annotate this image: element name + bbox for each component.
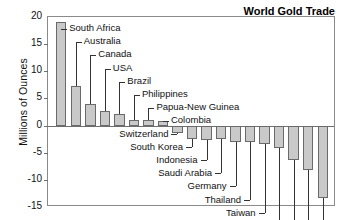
leader-line (171, 134, 177, 135)
leader-line (201, 160, 207, 161)
leader-line (294, 160, 295, 220)
leader-line (244, 200, 250, 201)
leader-line (221, 139, 222, 173)
leader-line (192, 139, 193, 147)
leader-line (134, 95, 135, 120)
y-tick-mark (44, 98, 48, 99)
bar-label-canada: Canada (98, 49, 131, 59)
leader-line (119, 82, 125, 83)
y-tick-label: -10 (16, 174, 42, 184)
leader-line (265, 144, 266, 213)
y-tick-mark (44, 126, 48, 127)
leader-line (308, 170, 309, 220)
y-tick-label: 5 (16, 92, 42, 102)
chart-root: Millions of Ounces 20151050-5-10-15 Worl… (0, 0, 343, 220)
y-tick-label: 0 (16, 120, 42, 130)
leader-line (90, 55, 91, 103)
bar-label-south-africa: South Africa (69, 23, 120, 33)
bar-switzerland (172, 126, 182, 133)
bar-label-indonesia: Indonesia (48, 155, 198, 165)
leader-line (90, 55, 96, 56)
bar-label-taiwan: Taiwan (48, 208, 256, 218)
y-tick-label: 10 (16, 65, 42, 75)
bar-label-australia: Australia (84, 36, 121, 46)
bar-thailand (245, 126, 255, 142)
bar-label-usa: USA (113, 63, 133, 73)
bar-south-korea (187, 126, 197, 139)
leader-line (148, 108, 149, 120)
bar-brazil (114, 114, 124, 125)
bar-saudi-arabia (216, 126, 226, 140)
bar-label-south-korea: South Korea (48, 142, 183, 152)
leader-line (148, 108, 154, 109)
leader-line (105, 69, 106, 111)
plot-area: South AfricaAustraliaCanadaUSABrazilPhil… (47, 16, 335, 206)
leader-line (207, 140, 208, 160)
bar-label-colombia: Colombia (171, 115, 211, 125)
leader-line (186, 147, 192, 148)
bar-label-brazil: Brazil (127, 76, 151, 86)
bar-turkey (274, 126, 284, 148)
leader-line (250, 142, 251, 200)
leader-line (134, 95, 140, 96)
leader-line (323, 198, 324, 220)
leader-line (105, 69, 111, 70)
bar-india (303, 126, 313, 171)
y-tick-label: -15 (16, 201, 42, 211)
bar-australia (71, 86, 81, 126)
bar-label-saudi-arabia: Saudi Arabia (48, 168, 212, 178)
bar-japan (288, 126, 298, 160)
bar-south-africa (56, 22, 66, 125)
bar-germany (230, 126, 240, 142)
y-tick-label: -5 (16, 147, 42, 157)
leader-line (279, 148, 280, 220)
leader-line (76, 42, 82, 43)
leader-line (215, 173, 221, 174)
y-tick-label: 20 (16, 11, 42, 21)
y-tick-mark (44, 153, 48, 154)
leader-line (230, 186, 236, 187)
leader-line (76, 42, 77, 86)
bar-philippines (129, 120, 139, 125)
bar-label-thailand: Thailand (48, 195, 241, 205)
leader-line (259, 213, 265, 214)
bar-taiwan (259, 126, 269, 144)
y-axis-tick-labels: 20151050-5-10-15 (14, 0, 42, 220)
leader-line (177, 133, 178, 134)
y-tick-mark (44, 44, 48, 45)
leader-line (163, 121, 169, 122)
bar-papua-new-guinea (143, 120, 153, 125)
y-tick-label: 15 (16, 38, 42, 48)
bar-usa (100, 111, 110, 126)
y-tick-mark (44, 71, 48, 72)
bar-indonesia (201, 126, 211, 141)
leader-line (119, 82, 120, 114)
leader-line (61, 29, 67, 30)
bar-label-switzerland: Switzerland (48, 129, 168, 139)
bar-canada (85, 104, 95, 126)
bar-italy (318, 126, 328, 198)
bar-label-germany: Germany (48, 181, 227, 191)
leader-line (236, 142, 237, 187)
bar-label-papua-new-guinea: Papua-New Guinea (156, 102, 239, 112)
bar-label-philippines: Philippines (142, 89, 188, 99)
